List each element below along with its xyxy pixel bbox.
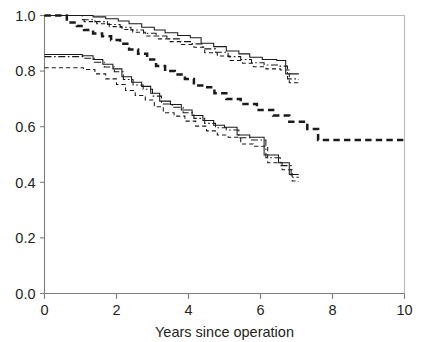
x-tick-label: 4 xyxy=(184,302,192,318)
y-tick-label: 0.6 xyxy=(15,119,35,135)
x-tick-label: 10 xyxy=(396,302,412,318)
survival-curve-figure: 0.00.20.40.60.81.0 0246810 Years since o… xyxy=(0,0,424,342)
y-tick-label: 0.8 xyxy=(15,63,35,79)
y-tick-label: 0.0 xyxy=(15,286,35,302)
x-tick-label: 8 xyxy=(328,302,336,318)
x-tick-label: 6 xyxy=(256,302,264,318)
x-tick-label: 2 xyxy=(112,302,120,318)
x-axis-title: Years since operation xyxy=(155,324,294,340)
x-tick-label: 0 xyxy=(40,302,48,318)
y-tick-label: 1.0 xyxy=(15,8,35,24)
kaplan-meier-plot: 0.00.20.40.60.81.0 0246810 Years since o… xyxy=(0,0,424,342)
y-tick-label: 0.4 xyxy=(15,175,35,191)
y-tick-label: 0.2 xyxy=(15,230,35,246)
figure-background xyxy=(0,0,424,342)
